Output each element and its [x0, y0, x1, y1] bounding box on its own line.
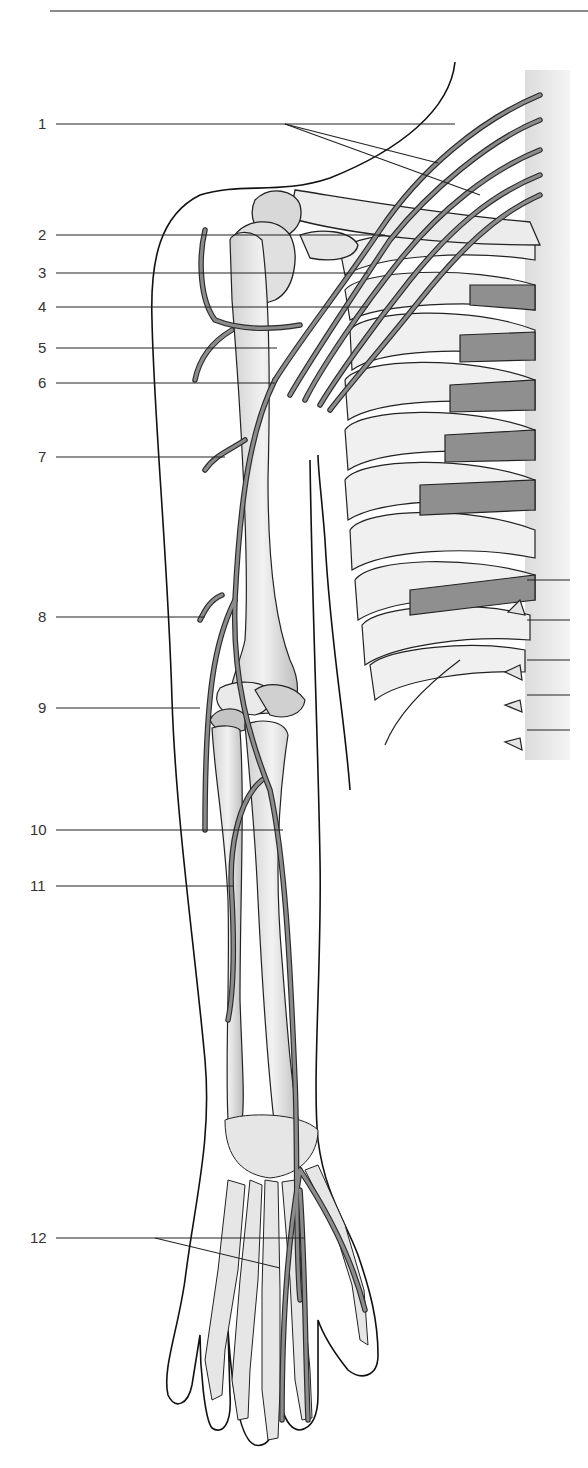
label-number-6: 6 — [38, 375, 46, 390]
label-number-10: 10 — [30, 822, 47, 837]
label-number-2: 2 — [38, 227, 46, 242]
label-number-12: 12 — [30, 1230, 47, 1245]
label-number-5: 5 — [38, 340, 46, 355]
label-number-7: 7 — [38, 449, 46, 464]
label-number-1: 1 — [38, 116, 46, 131]
label-number-11: 11 — [30, 878, 46, 893]
label-number-9: 9 — [38, 700, 46, 715]
humerus — [229, 232, 298, 715]
label-number-8: 8 — [38, 609, 46, 624]
label-number-3: 3 — [38, 265, 46, 280]
label-number-4: 4 — [38, 299, 46, 314]
anatomy-figure — [0, 0, 588, 1468]
